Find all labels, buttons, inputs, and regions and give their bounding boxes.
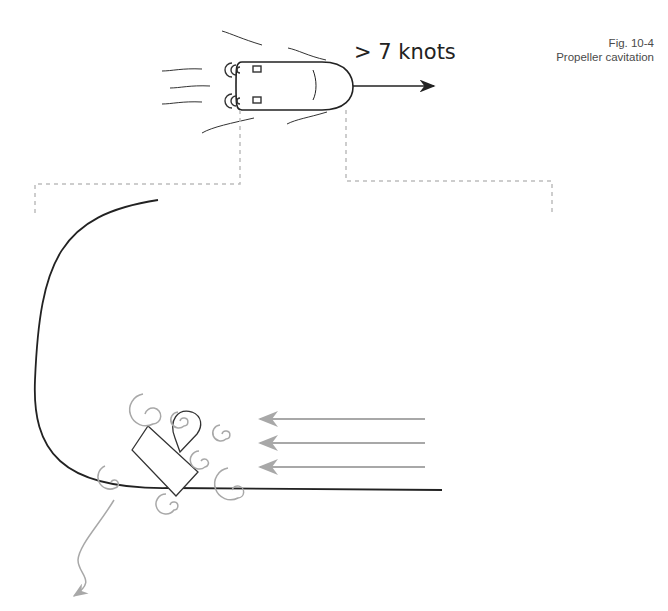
propeller-cavitation-icon xyxy=(225,63,261,108)
outboard-motor-icon xyxy=(132,411,201,496)
wake-lines xyxy=(162,31,327,133)
zoom-connector-lines xyxy=(35,110,552,215)
cavitation-swirls xyxy=(74,394,244,596)
boat-top-view xyxy=(162,31,434,133)
turning-path xyxy=(35,200,442,490)
diagram-canvas xyxy=(0,0,668,611)
water-flow-arrows xyxy=(260,419,425,467)
